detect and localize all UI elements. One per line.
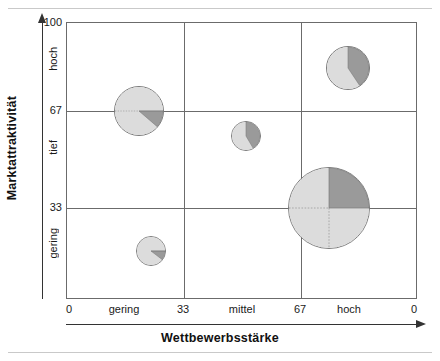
x-tick-0-left: 0: [66, 303, 72, 316]
gridline-vertical-67: [301, 23, 302, 298]
y-category-gering: gering: [48, 228, 59, 259]
x-tick-33: 33: [177, 303, 189, 316]
x-tick-0-right: 0: [411, 303, 417, 316]
gridline-vertical-33: [184, 23, 185, 298]
x-axis-arrow: [66, 324, 417, 325]
bubble-bottom-right[interactable]: [288, 167, 370, 249]
x-axis-tick-labels: 0 gering 33 mittel 67 hoch 0: [0, 303, 440, 319]
bubble-top-right[interactable]: [326, 46, 370, 90]
figure-top-rule: [8, 8, 432, 9]
portfolio-matrix-figure: Marktattraktivität 100 67 33 hoch tief g…: [0, 0, 440, 361]
plot-area: [66, 22, 417, 299]
x-tick-hoch: hoch: [337, 303, 361, 316]
bubble-bottom-left[interactable]: [136, 236, 166, 266]
bubble-top-left[interactable]: [114, 86, 164, 136]
y-axis-title-text: Marktattraktivität: [5, 96, 19, 200]
y-category-hoch: hoch: [48, 47, 59, 71]
x-tick-mittel: mittel: [229, 303, 255, 316]
figure-bottom-rule: [8, 352, 432, 353]
x-axis-title: Wettbewerbsstärke: [0, 331, 440, 345]
x-tick-gering: gering: [109, 303, 140, 316]
y-category-tief: tief: [48, 140, 59, 155]
x-tick-67: 67: [294, 303, 306, 316]
bubble-middle[interactable]: [231, 121, 261, 151]
